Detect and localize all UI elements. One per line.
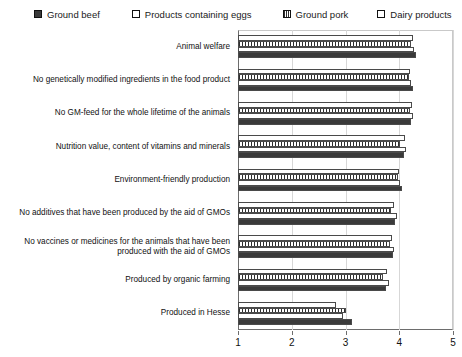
bar-groups (238, 30, 453, 330)
legend-label: Ground pork (296, 9, 349, 20)
category-label: Environment-friendly production (6, 175, 230, 185)
legend-label: Ground beef (47, 9, 100, 20)
legend-swatch-icon (377, 10, 385, 18)
bar-group (238, 130, 453, 163)
category-axis-labels: Animal welfareNo genetically modified in… (0, 30, 234, 330)
bar (238, 86, 413, 92)
gridline (453, 30, 454, 330)
x-tick-mark (399, 331, 400, 335)
legend-item-products-containing-eggs: Products containing eggs (132, 9, 252, 20)
bar-group (238, 230, 453, 263)
legend-swatch-icon (132, 10, 140, 18)
bar (238, 286, 386, 292)
x-axis: 12345 (238, 331, 453, 355)
bar (238, 152, 404, 158)
bar (238, 52, 416, 58)
category-label: No GM-feed for the whole lifetime of the… (6, 108, 230, 118)
bar (238, 186, 402, 192)
legend-swatch-icon (283, 10, 291, 18)
category-label: Produced by organic farming (6, 275, 230, 285)
bar (238, 252, 393, 258)
x-tick-mark (292, 331, 293, 335)
legend-swatch-icon (34, 10, 42, 18)
x-tick-label: 3 (343, 337, 349, 349)
legend-label: Dairy products (390, 9, 451, 20)
bar-group (238, 297, 453, 330)
x-tick-mark (238, 331, 239, 335)
bar-group (238, 263, 453, 296)
category-label: No additives that have been produced by … (6, 208, 230, 218)
bar (238, 119, 411, 125)
legend-label: Products containing eggs (145, 9, 252, 20)
x-tick-label: 4 (396, 337, 402, 349)
x-tick-label: 2 (289, 337, 295, 349)
category-label: Produced in Hesse (6, 308, 230, 318)
legend-item-ground-beef: Ground beef (34, 9, 100, 20)
plot-area (238, 30, 453, 330)
legend-item-ground-pork: Ground pork (283, 9, 349, 20)
category-label: Nutrition value, content of vitamins and… (6, 142, 230, 152)
category-label: Animal welfare (6, 42, 230, 52)
bar-group (238, 163, 453, 196)
bar-group (238, 97, 453, 130)
x-tick-mark (346, 331, 347, 335)
category-label: No genetically modified ingredients in t… (6, 75, 230, 85)
bar-group (238, 30, 453, 63)
bar (238, 319, 352, 325)
x-tick-label: 5 (450, 337, 456, 349)
bar-group (238, 197, 453, 230)
category-label: No vaccines or medicines for the animals… (2, 237, 230, 257)
chart-legend: Ground beef Products containing eggs Gro… (0, 5, 462, 23)
x-tick-label: 1 (235, 337, 241, 349)
bar-chart: Ground beef Products containing eggs Gro… (0, 0, 462, 357)
x-tick-mark (453, 331, 454, 335)
bar-group (238, 63, 453, 96)
bar (238, 219, 395, 225)
legend-item-dairy-products: Dairy products (377, 9, 451, 20)
